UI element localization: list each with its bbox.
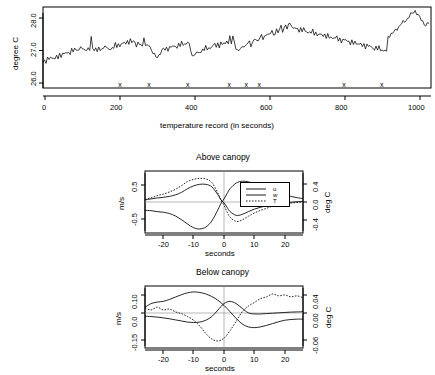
- top-xtick-400: 400: [185, 104, 198, 112]
- legend-label-T: T: [273, 198, 277, 204]
- below-canopy-plot-area: [135, 282, 315, 354]
- below-xtick-20: 20: [281, 356, 289, 364]
- event-marker: x: [186, 81, 190, 88]
- event-marker: x: [258, 81, 262, 88]
- top-xtick-200: 200: [110, 104, 123, 112]
- panel-below-canopy: Below canopy m/s 0.10 0.0 -0.15 0.04 0.0…: [0, 265, 435, 375]
- below-xtick--20: -20: [158, 356, 169, 364]
- below-canopy-xlabel: seconds: [205, 365, 235, 373]
- event-marker: x: [342, 81, 346, 88]
- panel-temperature-timeseries: degree C 28.0 27.0 26.0 0 200 400 600 80…: [0, 0, 435, 140]
- above-xtick-0: 0: [222, 241, 226, 249]
- below-canopy-ylabel-left: m/s: [115, 312, 123, 325]
- legend-line-samples: [244, 183, 270, 208]
- figure-canvas: degree C 28.0 27.0 26.0 0 200 400 600 80…: [0, 0, 435, 375]
- top-xtick-0: 0: [42, 104, 46, 112]
- top-panel-xlabel: temperature record (in seconds): [160, 122, 274, 130]
- below-canopy-title: Below canopy: [196, 268, 249, 277]
- above-ytick-right-0.0: 0.0: [312, 200, 320, 210]
- top-xtick-800: 800: [335, 104, 348, 112]
- above-canopy-ylabel-right: deg C: [324, 192, 332, 213]
- below-canopy-ylabel-right: deg C: [325, 307, 333, 328]
- top-xtick-600: 600: [260, 104, 273, 112]
- above-canopy-legend: u w T: [240, 182, 290, 207]
- above-xtick-10: 10: [250, 241, 258, 249]
- above-canopy-ylabel-left: m/s: [118, 197, 126, 210]
- event-marker: x: [147, 81, 151, 88]
- below-ytick-right-0.00: 0.00: [312, 313, 320, 328]
- top-panel-ylabel: degree C: [12, 37, 20, 70]
- above-ytick-right--0.4: -0.4: [312, 218, 320, 231]
- below-xtick-0: 0: [222, 356, 226, 364]
- above-xtick--20: -20: [158, 241, 169, 249]
- above-canopy-title: Above canopy: [196, 153, 250, 162]
- above-ytick-right-0.4: 0.4: [312, 182, 320, 192]
- event-marker: x: [244, 81, 248, 88]
- above-xtick-20: 20: [281, 241, 289, 249]
- below-ytick-right-0.04: 0.04: [312, 294, 320, 309]
- event-marker: x: [227, 81, 231, 88]
- below-xtick--10: -10: [188, 356, 199, 364]
- above-xtick--10: -10: [188, 241, 199, 249]
- event-marker-layer: xxxxxxxx: [35, 5, 435, 100]
- below-xtick-10: 10: [250, 356, 258, 364]
- top-xtick-1000: 1000: [408, 104, 425, 112]
- above-canopy-xlabel: seconds: [205, 250, 235, 258]
- event-marker: x: [118, 81, 122, 88]
- panel-above-canopy: Above canopy m/s 0.5 -0.5 0.4 0.0 -0.4 d…: [0, 150, 435, 260]
- event-marker: x: [380, 81, 384, 88]
